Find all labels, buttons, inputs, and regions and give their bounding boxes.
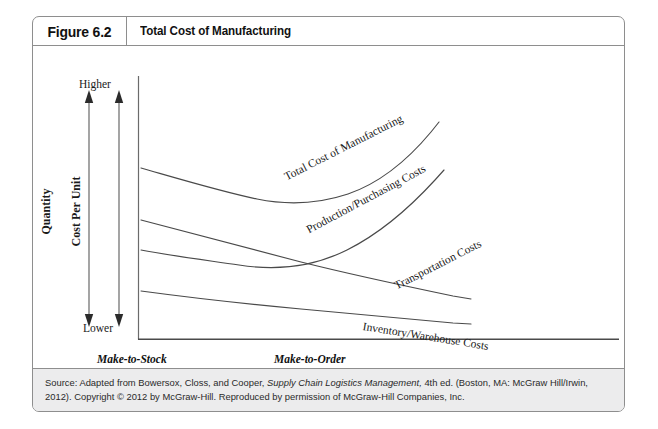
quantity-axis-arrow — [85, 90, 93, 327]
source-citation: Source: Adapted from Bowersox, Closs, an… — [45, 376, 612, 404]
figure-title: Total Cost of Manufacturing — [140, 24, 291, 38]
y-scale-higher-label: Higher — [79, 78, 111, 90]
y-axis-title-quantity: Quantity — [39, 167, 54, 257]
chart-plot-region: Higher Lower Quantity Cost Per Unit Tota… — [33, 46, 624, 376]
curve-transportation-costs — [141, 220, 471, 299]
x-label-make-to-order: Make-to-Order — [274, 353, 346, 365]
figure-header: Figure 6.2 Total Cost of Manufacturing — [33, 17, 624, 46]
figure-page: Figure 6.2 Total Cost of Manufacturing — [0, 0, 658, 429]
figure-title-cell: Total Cost of Manufacturing — [127, 17, 624, 45]
source-line1-prefix: Source: Adapted from Bowersox, Closs, an… — [45, 377, 267, 388]
curve-inventory-warehouse-costs — [141, 291, 471, 324]
figure-number: Figure 6.2 — [47, 23, 111, 40]
cost-per-unit-axis-arrow — [115, 90, 123, 327]
curve-total-cost-of-manufacturing — [141, 122, 439, 203]
source-book-title: Supply Chain Logistics Management, — [267, 377, 422, 388]
x-label-make-to-stock: Make-to-Stock — [97, 353, 167, 365]
figure-number-cell: Figure 6.2 — [33, 17, 127, 45]
y-scale-lower-label: Lower — [83, 322, 113, 334]
source-line2: © 2012 by McGraw-Hill. Reproduced by per… — [117, 391, 465, 402]
figure-source-footer: Source: Adapted from Bowersox, Closs, an… — [33, 368, 624, 411]
figure-container: Figure 6.2 Total Cost of Manufacturing — [32, 16, 625, 412]
y-axis-title-cost-per-unit: Cost Per Unit — [69, 157, 84, 267]
